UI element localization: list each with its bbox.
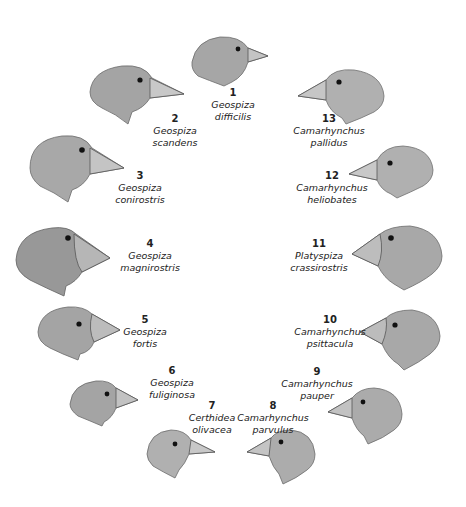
species-name: fortis — [110, 338, 180, 350]
finch-head-11-icon — [350, 222, 446, 292]
finch-diagram: 1 Geospiza difficilis 2 Geospiza scanden… — [0, 0, 466, 507]
species-genus: Geospiza — [110, 326, 180, 338]
finch-head-6-icon — [66, 376, 140, 428]
species-name: parvulus — [228, 424, 318, 436]
species-label-11: 11 Platyspiza crassirostris — [276, 238, 362, 274]
species-name: magnirostris — [110, 262, 190, 274]
species-number: 2 — [140, 113, 210, 125]
species-genus: Camarhynchus — [287, 182, 377, 194]
species-number: 13 — [284, 113, 374, 125]
species-genus: Geospiza — [198, 99, 268, 111]
species-label-3: 3 Geospiza conirostris — [105, 170, 175, 206]
species-label-10: 10 Camarhynchus psittacula — [285, 314, 375, 350]
species-number: 4 — [110, 238, 190, 250]
species-number: 6 — [134, 365, 210, 377]
species-number: 1 — [198, 87, 268, 99]
species-number: 12 — [287, 170, 377, 182]
species-genus: Platyspiza — [276, 250, 362, 262]
species-name: crassirostris — [276, 262, 362, 274]
species-number: 8 — [228, 400, 318, 412]
species-genus: Geospiza — [140, 125, 210, 137]
species-number: 9 — [272, 366, 362, 378]
species-label-8: 8 Camarhynchus parvulus — [228, 400, 318, 436]
species-genus: Geospiza — [105, 182, 175, 194]
species-genus: Camarhynchus — [285, 326, 375, 338]
species-label-9: 9 Camarhynchus pauper — [272, 366, 362, 402]
species-label-6: 6 Geospiza fuliginosa — [134, 365, 210, 401]
species-genus: Geospiza — [134, 377, 210, 389]
species-label-4: 4 Geospiza magnirostris — [110, 238, 190, 274]
finch-head-5-icon — [34, 302, 122, 362]
species-name: psittacula — [285, 338, 375, 350]
species-name: scandens — [140, 137, 210, 149]
species-name: pallidus — [284, 137, 374, 149]
species-name: conirostris — [105, 194, 175, 206]
species-genus: Camarhynchus — [228, 412, 318, 424]
species-genus: Camarhynchus — [272, 378, 362, 390]
species-genus: Camarhynchus — [284, 125, 374, 137]
species-number: 11 — [276, 238, 362, 250]
species-label-12: 12 Camarhynchus heliobates — [287, 170, 377, 206]
species-genus: Geospiza — [110, 250, 190, 262]
species-number: 5 — [110, 314, 180, 326]
species-label-5: 5 Geospiza fortis — [110, 314, 180, 350]
species-label-2: 2 Geospiza scandens — [140, 113, 210, 149]
finch-head-1-icon — [188, 32, 270, 87]
species-label-13: 13 Camarhynchus pallidus — [284, 113, 374, 149]
species-number: 10 — [285, 314, 375, 326]
species-name: heliobates — [287, 194, 377, 206]
finch-head-4-icon — [12, 222, 112, 298]
species-number: 3 — [105, 170, 175, 182]
